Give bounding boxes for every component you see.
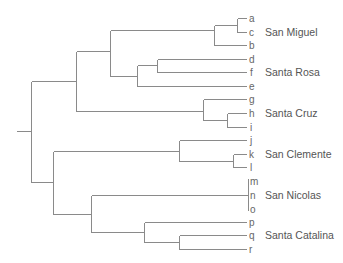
branch-san-nicolas — [92, 179, 249, 211]
branch-nicolas-catalina — [54, 196, 92, 233]
branch-a-c — [215, 19, 248, 33]
branch-k-l — [180, 155, 248, 168]
leaf-label-m: m — [250, 176, 258, 187]
leaf-label-k: k — [249, 149, 255, 160]
branch-santa-catalina — [92, 223, 248, 243]
group-labels: San Miguel Santa Rosa Santa Cruz San Cle… — [265, 26, 334, 241]
branch-san-clemente — [54, 141, 248, 162]
leaf-label-p: p — [249, 217, 255, 228]
branch-santa-rosa — [111, 66, 248, 87]
leaf-label-b: b — [249, 40, 255, 51]
branch-san-miguel — [111, 26, 248, 46]
leaf-label-o: o — [250, 204, 256, 215]
branch-q-r — [145, 236, 248, 250]
leaf-label-d: d — [249, 54, 255, 65]
leaf-label-a: a — [249, 13, 255, 24]
group-label-santa-catalina: Santa Catalina — [265, 229, 334, 241]
group-label-san-nicolas: San Nicolas — [265, 189, 321, 201]
leaf-labels: a c b d f e g h i j k l m n o p q r — [249, 13, 258, 255]
leaf-label-j: j — [249, 135, 252, 146]
dendrogram: a c b d f e g h i j k l m n o p q r San … — [0, 0, 343, 263]
leaf-label-q: q — [249, 230, 255, 241]
leaf-label-r: r — [249, 244, 253, 255]
branch-miguel-rosa — [77, 31, 111, 77]
branch-d-f — [138, 60, 248, 73]
leaf-label-g: g — [249, 94, 255, 105]
leaf-label-f: f — [250, 67, 253, 78]
leaf-label-l: l — [250, 162, 252, 173]
group-label-san-miguel: San Miguel — [265, 26, 318, 38]
group-label-san-clemente: San Clemente — [265, 148, 332, 160]
tree-branches — [17, 19, 249, 250]
leaf-label-e: e — [249, 81, 255, 92]
group-label-santa-rosa: Santa Rosa — [265, 66, 320, 78]
branch-h-i — [204, 114, 248, 128]
branch-top-clade — [32, 52, 77, 112]
leaf-label-h: h — [249, 108, 255, 119]
leaf-label-n: n — [250, 190, 256, 201]
group-label-santa-cruz: Santa Cruz — [265, 107, 318, 119]
leaf-label-i: i — [250, 122, 252, 133]
leaf-label-c: c — [249, 27, 254, 38]
branch-bottom-clade — [32, 152, 54, 215]
branch-santa-cruz — [77, 100, 248, 121]
